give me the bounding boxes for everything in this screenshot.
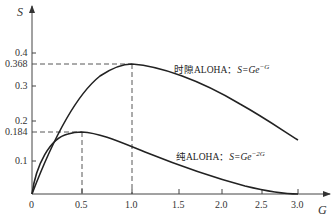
y-tick-label: 0.184 xyxy=(5,126,28,137)
x-tick-label: 1.5 xyxy=(172,199,185,210)
x-tick-label: 2.5 xyxy=(255,199,268,210)
y-tick-label: 0.2 xyxy=(15,115,28,126)
x-tick-label: 0.5 xyxy=(75,199,88,210)
pure-aloha-label: 纯ALOHA：S=Ge−2G xyxy=(176,150,265,162)
max-guides xyxy=(32,64,132,194)
pure-aloha-curve xyxy=(32,132,298,194)
y-tick-label: 0.368 xyxy=(5,58,28,69)
y-tick-label: 0.3 xyxy=(15,80,28,91)
chart-canvas: S G 0 0.5 1.0 1.5 2.0 2.5 3.0 0.1 0.184 … xyxy=(0,0,335,220)
y-ticks xyxy=(32,53,36,161)
slotted-aloha-curve xyxy=(32,64,298,194)
x-tick-label: 2.0 xyxy=(215,199,228,210)
x-tick-label: 3.0 xyxy=(291,199,304,210)
x-tick-label: 0 xyxy=(29,199,34,210)
y-tick-label: 0.4 xyxy=(15,47,28,58)
y-tick-label: 0.1 xyxy=(15,155,28,166)
x-tick-label: 1.0 xyxy=(125,199,138,210)
slotted-aloha-label: 时隙ALOHA：S=Ge−G xyxy=(174,63,269,75)
y-axis-title: S xyxy=(17,5,23,19)
x-axis-title: G xyxy=(318,203,327,217)
